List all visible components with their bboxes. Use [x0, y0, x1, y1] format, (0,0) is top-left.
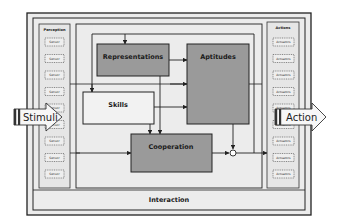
sensor-label: Sensor: [49, 73, 60, 77]
actuator-label: Actuators: [276, 139, 291, 143]
sensor-label: Sensor: [49, 90, 60, 94]
actuator-label: Actuators: [276, 90, 291, 94]
architecture-diagram: Interaction Perception SensorSensorSenso…: [0, 0, 340, 223]
sensor-label: Sensor: [49, 57, 60, 61]
skills-label: Skills: [108, 101, 128, 109]
sensor-label: Sensor: [49, 40, 60, 44]
actuator-label: Actuators: [276, 40, 291, 44]
cooperation-label: Cooperation: [149, 143, 194, 151]
action-label: Action: [286, 112, 317, 123]
perception-title: Perception: [44, 28, 66, 32]
actuator-label: Actuators: [276, 73, 291, 77]
aptitudes-label: Aptitudes: [200, 53, 236, 61]
junction-node: [230, 150, 236, 156]
interaction-label: Interaction: [149, 196, 190, 204]
sensor-label: Sensor: [49, 156, 60, 160]
sensor-label: Sensor: [49, 172, 60, 176]
actuator-label: Actuators: [276, 57, 291, 61]
stimuli-label: Stimuli: [23, 112, 58, 123]
actions-title: Actions: [275, 26, 290, 30]
representations-label: Representations: [103, 53, 164, 61]
sensor-label: Sensor: [49, 139, 60, 143]
actuator-list: ActuatorsActuatorsActuatorsActuatorsActu…: [273, 38, 294, 178]
actuator-label: Actuators: [276, 156, 291, 160]
cooperation-box: [131, 134, 212, 172]
actuator-label: Actuators: [276, 172, 291, 176]
